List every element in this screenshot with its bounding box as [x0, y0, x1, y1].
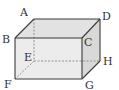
vertex-label-B: B: [2, 33, 10, 46]
vertex-label-A: A: [19, 6, 29, 19]
cuboid-diagram: A B C D E F G H: [0, 0, 119, 90]
vertex-label-C: C: [84, 36, 92, 49]
vertex-label-E: E: [24, 51, 32, 64]
vertex-label-D: D: [102, 10, 111, 23]
vertex-label-H: H: [103, 55, 113, 68]
vertex-label-F: F: [4, 78, 12, 90]
vertex-label-G: G: [85, 79, 94, 90]
